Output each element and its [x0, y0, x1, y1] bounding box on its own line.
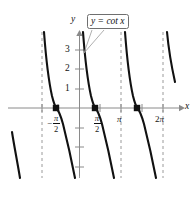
- x-axis-label: x: [185, 102, 189, 112]
- y-tick-label-1: 1: [65, 84, 70, 94]
- x-tick-label-neg-half-pi-minus: −: [47, 119, 52, 129]
- callout-leader-lines: [84, 30, 104, 53]
- x-tick-label-pi-symbol: π: [117, 114, 122, 124]
- zero-marker-neg-half-pi: [53, 105, 59, 111]
- x-tick-label-two-pi: 2π: [155, 115, 164, 124]
- cot-branch-partial-right: [167, 32, 175, 82]
- asymptote-group: [42, 32, 163, 178]
- x-tick-label-neg-half-pi-fraction: π 2: [53, 114, 60, 133]
- y-tick-label-2: 2: [65, 64, 70, 74]
- x-tick-label-half-pi-fraction: π 2: [94, 114, 101, 133]
- x-tick-label-neg-half-pi-denominator: 2: [54, 124, 58, 133]
- callout-leader-line-2: [84, 30, 104, 53]
- x-tick-label-neg-half-pi-numerator: π: [53, 114, 59, 123]
- cot-branch-pi-to-two-pi: [125, 32, 156, 178]
- plot-canvas: [0, 0, 193, 201]
- zero-marker-half-pi: [92, 105, 98, 111]
- cotangent-graph-figure: y x 3 2 1 − π 2 π 2 π 2π y = cot x: [0, 0, 193, 201]
- cot-branch-neg-pi-to-zero: [44, 32, 75, 178]
- x-tick-label-half-pi-denominator: 2: [95, 124, 99, 133]
- x-tick-label-half-pi-numerator: π: [94, 114, 100, 123]
- zero-marker-three-half-pi: [134, 105, 140, 111]
- cot-branch-zero-to-pi: [83, 32, 114, 178]
- axis-group: [8, 30, 185, 176]
- equation-callout-box: y = cot x: [87, 14, 129, 29]
- callout-leader-line-1: [84, 30, 92, 53]
- x-tick-label-half-pi: π 2: [93, 114, 101, 133]
- cot-branch-partial-left: [12, 132, 20, 178]
- y-axis-arrowhead: [76, 30, 82, 36]
- y-axis-label: y: [71, 15, 75, 25]
- x-tick-label-pi: π: [117, 115, 122, 124]
- x-tick-label-two-pi-symbol: π: [160, 114, 165, 124]
- y-tick-label-3: 3: [65, 45, 70, 55]
- x-tick-label-neg-half-pi: − π 2: [47, 114, 60, 133]
